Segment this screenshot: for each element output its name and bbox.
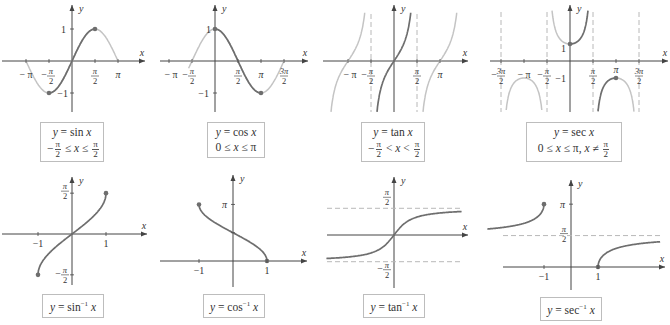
caption-atan: y = tan−1 x (363, 294, 425, 318)
acos-label-1: 1 (265, 265, 270, 276)
sec-endpoint-bottom (614, 76, 619, 81)
caption-asec: y = sec−1 x (540, 297, 602, 321)
tan-y-label: y (400, 3, 406, 14)
asin-label-neg-half-pi-den: 2 (63, 275, 67, 285)
cos-label-neg-half-pi-minus: − (182, 69, 188, 80)
sec-label-neg-three-half-pi-num: 3π (496, 66, 506, 76)
caption-cos: y = cos x 0 ≤ x ≤ π (207, 122, 265, 158)
atan-label-neg-half-pi-den: 2 (385, 270, 389, 280)
sec-label-neg-half-pi-num: π (545, 66, 550, 76)
sin-label-neg-half-pi-den: 2 (49, 76, 53, 86)
tan-label-neg-pi: − π (343, 69, 356, 80)
atan-label-neg-half-pi-minus: − (377, 263, 383, 274)
sin-endpoint-left (47, 91, 52, 96)
sec-label-half-pi-den: 2 (591, 76, 595, 86)
cos-label-neg-pi: − π (164, 69, 177, 80)
asec-label-pi: π (560, 199, 566, 210)
cos-x-arrow-icon (302, 59, 308, 64)
caption-tan-eq: y = tan x (368, 125, 418, 140)
tan-label-pi: π (437, 69, 443, 80)
cos-label-1: 1 (206, 24, 211, 35)
caption-asin-eq: y = sin−1 x (49, 297, 97, 315)
atan-y-label: y (400, 175, 406, 186)
atan-label-neg-half-pi-num: π (385, 260, 390, 270)
sec-label-three-half-pi-den: 2 (637, 76, 641, 86)
asin-y-label: y (78, 175, 84, 186)
sec-label-pi: π (613, 64, 619, 75)
asin-label-half-pi-num: π (63, 181, 68, 191)
acos-endpoint-left (197, 202, 202, 207)
acos-y-label: y (239, 173, 245, 184)
caption-acos-eq: y = cos−1 x (210, 297, 258, 315)
asec-y-arrow-icon (569, 180, 574, 186)
sin-endpoint-right (93, 27, 98, 32)
sin-label-half-pi-num: π (93, 66, 98, 76)
sin-x-label: x (139, 47, 145, 58)
acos-x-label: x (301, 247, 307, 258)
sin-label-neg1: −1 (57, 88, 68, 99)
asin-x-arrow-icon (141, 232, 147, 237)
atan-label-half-pi-num: π (385, 187, 390, 197)
sin-label-neg-pi: − π (19, 69, 32, 80)
cos-endpoint-right (259, 91, 264, 96)
cos-label-half-pi-num: π (236, 66, 241, 76)
trig-inverse-diagram: xy− π−π2π2π1−1xy− π−π2π2π3π21−1xy− π−π2π… (0, 0, 670, 325)
acos-label-pi: π (222, 199, 228, 210)
caption-sec-eq: y = sec x (533, 125, 615, 140)
asin-endpoint-right (104, 191, 109, 196)
caption-acos: y = cos−1 x (203, 294, 265, 318)
caption-sin: y = sin x −π2 ≤ x ≤ π2 (40, 122, 104, 162)
asec-label-neg1: −1 (539, 271, 550, 282)
sin-label-half-pi-den: 2 (93, 76, 97, 86)
cos-y-arrow-icon (213, 5, 218, 11)
sec-label-three-half-pi-num: 3π (634, 66, 644, 76)
cos-label-half-pi-den: 2 (236, 76, 240, 86)
sin-y-arrow-icon (70, 5, 75, 11)
acos-y-arrow-icon (231, 175, 236, 181)
caption-tan: y = tan x −π2 < x < π2 (361, 122, 425, 162)
sin-label-pi: π (115, 69, 121, 80)
sec-label-neg1: −1 (555, 73, 566, 84)
asec-x-arrow-icon (659, 265, 665, 270)
asin-label-neg-half-pi-minus: − (55, 268, 61, 279)
asin-y-arrow-icon (70, 177, 75, 183)
sin-y-label: y (78, 3, 84, 14)
asec-curve-left (487, 204, 544, 229)
sec-main-curve-upper (570, 11, 588, 44)
asec-label-half-pi-num: π (562, 224, 567, 234)
cos-label-neg1: −1 (198, 88, 209, 99)
asec-label-half-pi-den: 2 (562, 234, 566, 244)
sec-faded-curve-left (506, 78, 542, 110)
sec-y-arrow-icon (568, 5, 573, 11)
caption-cos-domain: 0 ≤ x ≤ π (214, 140, 258, 155)
caption-tan-domain: −π2 < x < π2 (368, 140, 418, 159)
sin-label-neg-half-pi-num: π (49, 66, 54, 76)
asec-curve-right (598, 242, 660, 267)
atan-x-arrow-icon (462, 233, 468, 238)
sin-x-arrow-icon (139, 59, 145, 64)
atan-y-arrow-icon (392, 177, 397, 183)
sec-endpoint-top (568, 42, 573, 47)
cos-label-neg-half-pi-num: π (190, 66, 195, 76)
asec-y-label: y (577, 178, 583, 189)
caption-asec-eq: y = sec−1 x (547, 300, 595, 318)
sec-main-curve-lower (598, 78, 616, 111)
cos-y-label: y (221, 3, 227, 14)
asin-endpoint-left (36, 273, 41, 278)
tan-label-half-pi-num: π (415, 66, 420, 76)
sec-x-label: x (662, 47, 668, 58)
tan-y-arrow-icon (392, 5, 397, 11)
caption-sec: y = sec x 0 ≤ x ≤ π, x ≠ π2 (526, 122, 622, 162)
tan-x-arrow-icon (462, 59, 468, 64)
sec-label-half-pi-num: π (591, 66, 596, 76)
cos-x-label: x (302, 47, 308, 58)
asin-x-label: x (141, 220, 147, 231)
caption-asin: y = sin−1 x (42, 294, 104, 318)
caption-sec-domain: 0 ≤ x ≤ π, x ≠ π2 (533, 140, 615, 159)
caption-sin-eq: y = sin x (47, 125, 97, 140)
asec-label-1: 1 (596, 271, 601, 282)
tan-label-neg-half-pi-den: 2 (369, 76, 373, 86)
sin-label-1: 1 (61, 24, 66, 35)
sec-faded-curve-right (616, 78, 634, 112)
acos-label-neg1: −1 (194, 265, 205, 276)
